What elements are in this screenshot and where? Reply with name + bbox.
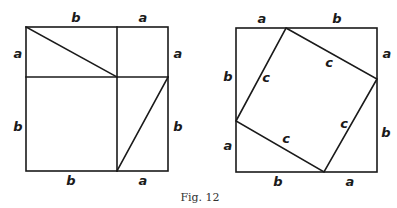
label-left-side-a: a <box>14 46 23 61</box>
label-right-top-a: a <box>258 11 267 26</box>
label-c-upper-right: c <box>325 55 333 70</box>
figure-caption: Fig. 12 <box>180 191 219 204</box>
label-right-bottom-a: a <box>346 174 355 189</box>
label-c-lower-right: c <box>340 116 348 131</box>
label-c-lower-left: c <box>282 131 290 146</box>
label-right-right-b: b <box>381 125 390 140</box>
left-rect-diagonal-top <box>26 27 117 77</box>
label-left-side-b: b <box>13 119 22 134</box>
label-left-right-a: a <box>174 46 183 61</box>
right-square-figure: a b a b b a b a c c c c <box>223 11 391 189</box>
inner-tilted-square <box>236 28 377 172</box>
label-left-bottom-a: a <box>139 173 148 188</box>
label-right-bottom-b: b <box>273 174 282 189</box>
pythagorean-proof-figure: b a a b a b b a a b a b b a b a c c c c … <box>0 0 397 208</box>
right-outer-square <box>236 28 377 172</box>
label-right-top-b: b <box>332 11 341 26</box>
left-rect-diagonal-right <box>117 77 168 171</box>
left-outer-square <box>26 27 168 171</box>
label-left-right-b: b <box>173 119 182 134</box>
label-left-bottom-b: b <box>66 173 75 188</box>
label-left-top-a: a <box>139 10 148 25</box>
label-left-top-b: b <box>71 10 80 25</box>
label-right-left-b: b <box>223 69 232 84</box>
label-right-left-a: a <box>224 138 233 153</box>
label-right-right-a: a <box>383 46 392 61</box>
left-square-figure: b a a b a b b a <box>13 10 182 188</box>
label-c-upper-left: c <box>262 70 270 85</box>
